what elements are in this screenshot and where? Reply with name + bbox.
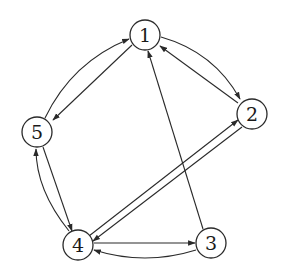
node-1-label: 1: [139, 24, 151, 46]
node-4-label: 4: [72, 234, 84, 256]
node-1: 1: [130, 20, 160, 50]
edge-4-to-5: [36, 149, 69, 231]
edge-2-to-4: [93, 127, 242, 241]
node-4: 4: [63, 230, 93, 260]
edge-3-to-1: [148, 51, 203, 229]
node-5-label: 5: [31, 121, 43, 143]
edge-3-to-4: [94, 250, 196, 258]
edge-4-to-2: [89, 120, 238, 236]
edge-1-to-2: [161, 37, 240, 99]
node-2-label: 2: [246, 103, 258, 125]
edge-1-to-5: [53, 45, 132, 120]
directed-graph: 1 2 3 4 5: [0, 0, 285, 272]
node-2: 2: [237, 99, 267, 129]
node-5: 5: [22, 117, 52, 147]
node-3: 3: [196, 228, 226, 258]
edge-5-to-4: [43, 147, 72, 231]
node-3-label: 3: [205, 232, 217, 254]
edge-5-to-1: [45, 39, 129, 118]
